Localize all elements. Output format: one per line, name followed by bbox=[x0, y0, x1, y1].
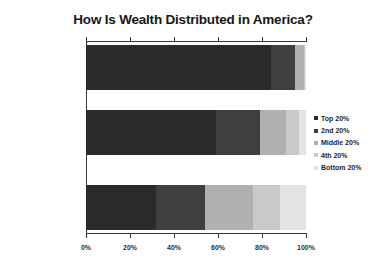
x-tick-bottom bbox=[86, 233, 87, 238]
bar-segment bbox=[260, 110, 286, 155]
x-tick-bottom bbox=[174, 233, 175, 238]
bar-segment bbox=[86, 110, 216, 155]
legend-item[interactable]: Bottom 20% bbox=[314, 162, 384, 174]
bar-segment bbox=[295, 45, 304, 90]
x-tick-top bbox=[218, 37, 219, 42]
legend-label: Bottom 20% bbox=[321, 164, 361, 171]
x-tick-label: 100% bbox=[297, 244, 315, 251]
x-tick-label: 60% bbox=[211, 244, 225, 251]
bar-group bbox=[86, 45, 306, 90]
bar-segment bbox=[253, 185, 279, 230]
legend-label: Middle 20% bbox=[321, 139, 359, 146]
bar-segment bbox=[299, 110, 306, 155]
x-tick-label: 80% bbox=[255, 244, 269, 251]
legend-item[interactable]: 2nd 20% bbox=[314, 124, 384, 136]
legend-label: 2nd 20% bbox=[321, 127, 349, 134]
x-tick-label: 20% bbox=[123, 244, 137, 251]
x-tick-top bbox=[174, 37, 175, 42]
legend-swatch-icon bbox=[314, 141, 318, 145]
wealth-distribution-chart: How Is Wealth Distributed in America? 0%… bbox=[0, 0, 386, 265]
bar-segment bbox=[205, 185, 253, 230]
legend-swatch-icon bbox=[314, 116, 318, 120]
x-tick-top bbox=[262, 37, 263, 42]
legend-swatch-icon bbox=[314, 153, 318, 157]
x-tick-bottom bbox=[262, 233, 263, 238]
legend-label: 4th 20% bbox=[321, 152, 347, 159]
x-tick-label: 0% bbox=[81, 244, 91, 251]
x-tick-label: 40% bbox=[167, 244, 181, 251]
x-tick-top bbox=[86, 37, 87, 42]
bar-segment bbox=[86, 45, 271, 90]
x-tick-bottom bbox=[306, 233, 307, 238]
bar-segment bbox=[280, 185, 306, 230]
legend-item[interactable]: Top 20% bbox=[314, 112, 384, 124]
bar-segment bbox=[216, 110, 260, 155]
bar-group bbox=[86, 185, 306, 230]
legend-swatch-icon bbox=[314, 166, 318, 170]
bar-segment bbox=[271, 45, 295, 90]
legend-item[interactable]: 4th 20% bbox=[314, 149, 384, 161]
legend-item[interactable]: Middle 20% bbox=[314, 137, 384, 149]
x-tick-bottom bbox=[218, 233, 219, 238]
axis-bottom-line bbox=[86, 233, 306, 234]
bar-group bbox=[86, 110, 306, 155]
bar-segment bbox=[286, 110, 299, 155]
legend-label: Top 20% bbox=[321, 115, 349, 122]
bar-segment bbox=[86, 185, 156, 230]
bar-segment bbox=[305, 45, 306, 90]
bar-segment bbox=[156, 185, 204, 230]
x-tick-bottom bbox=[130, 233, 131, 238]
plot-area: 0%20%40%60%80%100% bbox=[86, 41, 306, 234]
axis-top-line bbox=[86, 41, 306, 42]
legend: Top 20%2nd 20%Middle 20%4th 20%Bottom 20… bbox=[314, 112, 384, 174]
legend-swatch-icon bbox=[314, 129, 318, 133]
x-tick-top bbox=[130, 37, 131, 42]
chart-title: How Is Wealth Distributed in America? bbox=[0, 12, 386, 27]
x-tick-top bbox=[306, 37, 307, 42]
